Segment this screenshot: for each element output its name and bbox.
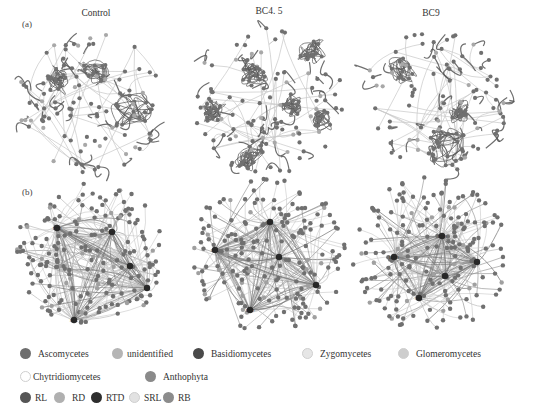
srl-swatch-icon [129,392,140,403]
svg-text:SRL: SRL [415,296,424,301]
svg-text:RD: RD [267,220,274,225]
svg-text:SRL: SRL [70,318,79,323]
legend-item-basidiomycetes: Basidiomycetes [193,348,271,359]
legend-label: Anthophyta [163,372,208,382]
legend-item-ascomycetes: Ascomycetes [20,348,89,359]
anthophyta-swatch-icon [145,371,156,382]
legend-label: SRL [144,393,161,403]
rb-swatch-icon [163,392,174,403]
rl-swatch-icon [20,392,31,403]
legend-label: unidentified [127,349,173,359]
legend-item-srl: SRL [129,392,161,403]
network-graphs: RTDRDRLRBSRLRDSRLRBRLRTDRTDRRDRBRLSRL [0,0,534,340]
glomeromycetes-swatch-icon [398,348,409,359]
legend-label: Ascomycetes [38,349,89,359]
legend-item-chytridiomycetes: Chytridiomycetes [20,371,101,382]
svg-text:RB: RB [144,286,150,291]
ascomycetes-swatch-icon [20,348,31,359]
legend-item-rb: RB [163,392,191,403]
network-figure: (a) (b) Control BC4. 5 BC9 RTDRDRLRBSRLR… [0,0,534,340]
unidentified-swatch-icon [112,348,123,359]
svg-text:RD: RD [109,230,116,235]
legend-item-unidentified: unidentified [112,348,173,359]
legend-label: RD [72,393,85,403]
legend-item-rtd: RTD [91,392,124,403]
zygomycetes-swatch-icon [302,348,313,359]
svg-text:RB: RB [276,255,282,260]
rd-swatch-icon [54,392,65,403]
legend-label: RTD [106,393,124,403]
legend: Ascomycetes unidentified Basidiomycetes … [0,340,534,420]
legend-label: Chytridiomycetes [33,372,101,382]
legend-item-glomeromycetes: Glomeromycetes [398,348,481,359]
rtd-swatch-icon [91,392,102,403]
svg-text:RL: RL [313,283,319,288]
svg-text:RB: RB [474,260,480,265]
svg-text:RRD: RRD [389,255,399,260]
svg-text:RTD: RTD [438,234,447,239]
legend-label: RB [178,393,191,403]
svg-text:SRL: SRL [211,248,220,253]
legend-label: RL [35,393,47,403]
legend-label: Zygomycetes [320,349,371,359]
legend-item-rl: RL [20,392,47,403]
svg-text:RTD: RTD [53,226,62,231]
basidiomycetes-swatch-icon [193,348,204,359]
svg-text:RL: RL [442,274,448,279]
svg-text:RL: RL [127,264,133,269]
legend-label: Glomeromycetes [416,349,481,359]
legend-label: Basidiomycetes [211,349,271,359]
legend-item-zygomycetes: Zygomycetes [302,348,371,359]
chytridiomycetes-swatch-icon [20,371,31,382]
svg-text:RTD: RTD [246,308,255,313]
legend-item-rd: RD [54,392,85,403]
legend-item-anthophyta: Anthophyta [145,371,208,382]
